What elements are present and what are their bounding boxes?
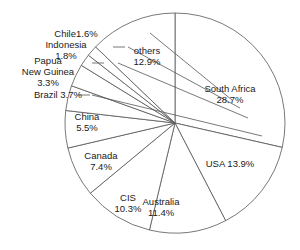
slice-label-canada: Canada 7.4% xyxy=(84,150,117,172)
slice-label-australia: Australia 11.4% xyxy=(143,196,180,218)
slice-label-usa: USA 13.9% xyxy=(206,158,255,169)
slice-label-cis: CIS 10.3% xyxy=(115,192,142,214)
slice-label-chile: Chile1.6% xyxy=(54,28,97,39)
slice-label-south-africa: South Africa 28.7% xyxy=(204,83,255,105)
pie-chart-page: South Africa 28.7% USA 13.9% Australia 1… xyxy=(0,0,300,250)
slice-label-china: China 5.5% xyxy=(75,111,100,133)
slice-label-indonesia: Indonesia 1.8% xyxy=(45,39,86,61)
slice-label-others: others 12.9% xyxy=(134,45,161,67)
slice-label-brazil: Brazil 3.7% xyxy=(34,89,82,100)
